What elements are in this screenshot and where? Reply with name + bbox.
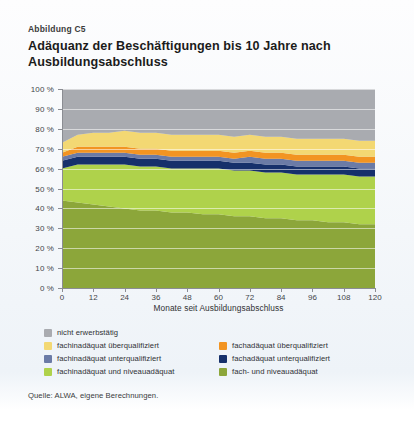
x-axis-tick-label: 48: [183, 293, 192, 302]
x-axis-tick-label: 84: [277, 293, 286, 302]
y-axis-tick-label: 100 %: [0, 85, 54, 94]
y-axis-tick-label: 0 %: [0, 284, 54, 293]
y-axis-tick-label: 90 %: [0, 104, 54, 113]
y-axis-tick: [58, 248, 62, 249]
legend-item: fachinadäquat überqualifiziert: [44, 341, 219, 350]
legend-label: nicht erwerbstätig: [57, 328, 118, 337]
x-axis-tick: [93, 288, 94, 292]
legend-item: fachadäquat unterqualifiziert: [219, 354, 394, 363]
legend-item: fachinadäquat unterqualifiziert: [44, 354, 219, 363]
x-axis-tick: [375, 288, 376, 292]
legend-label: fachinadäquat überqualifiziert: [57, 341, 159, 350]
figure-panel: Abbildung C5 Adäquanz der Beschäftigunge…: [0, 0, 414, 423]
y-axis-tick-label: 30 %: [0, 224, 54, 233]
gridline: [62, 109, 375, 110]
x-axis-tick-label: 0: [60, 293, 64, 302]
y-axis-line: [62, 89, 63, 289]
legend-row: nicht erwerbstätig: [44, 328, 394, 337]
y-axis-tick: [58, 169, 62, 170]
y-axis-tick: [58, 208, 62, 209]
legend-label: fachinadäquat unterqualifiziert: [57, 354, 161, 363]
x-axis-tick-label: 24: [120, 293, 129, 302]
legend-swatch-icon: [219, 368, 227, 376]
legend-row: fachinadäquat und niveauadäquatfach- und…: [44, 367, 394, 376]
legend-swatch-icon: [219, 342, 227, 350]
y-axis-tick-label: 20 %: [0, 244, 54, 253]
y-axis-tick-label: 50 %: [0, 184, 54, 193]
x-axis-tick-label: 120: [368, 293, 381, 302]
x-axis-tick-label: 60: [214, 293, 223, 302]
legend-label: fachadäquat überqualifiziert: [232, 341, 328, 350]
gridline: [62, 89, 375, 90]
x-axis-title: Monate seit Ausbildungsabschluss: [62, 303, 375, 313]
gridline: [62, 268, 375, 269]
gridline: [62, 189, 375, 190]
legend-item: fachadäquat überqualifiziert: [219, 341, 394, 350]
legend-swatch-icon: [44, 368, 52, 376]
legend-label: fachadäquat unterqualifiziert: [232, 354, 330, 363]
x-axis-tick: [125, 288, 126, 292]
legend-item: nicht erwerbstätig: [44, 328, 219, 337]
y-axis-tick: [58, 189, 62, 190]
chart-legend: nicht erwerbstätigfachinadäquat überqual…: [44, 328, 394, 380]
x-axis-tick: [281, 288, 282, 292]
gridline: [62, 169, 375, 170]
x-axis-tick: [250, 288, 251, 292]
x-axis-tick-label: 12: [89, 293, 98, 302]
x-axis-tick-label: 108: [337, 293, 350, 302]
gridline: [62, 208, 375, 209]
y-axis-tick-label: 40 %: [0, 204, 54, 213]
x-axis-tick: [187, 288, 188, 292]
y-axis-tick-label: 60 %: [0, 164, 54, 173]
x-axis-tick: [344, 288, 345, 292]
legend-item: fachinadäquat und niveauadäquat: [44, 367, 219, 376]
legend-label: fach- und niveauadäquat: [232, 367, 318, 376]
legend-swatch-icon: [44, 342, 52, 350]
legend-row: fachinadäquat unterqualifiziertfachadäqu…: [44, 354, 394, 363]
gridline: [62, 228, 375, 229]
x-axis-tick: [219, 288, 220, 292]
y-axis-tick-label: 70 %: [0, 144, 54, 153]
gridline: [62, 129, 375, 130]
x-axis-tick: [156, 288, 157, 292]
legend-item: fach- und niveauadäquat: [219, 367, 394, 376]
x-axis-tick: [62, 288, 63, 292]
source-note: Quelle: ALWA, eigene Berechnungen.: [28, 391, 158, 400]
legend-label: fachinadäquat und niveauadäquat: [57, 367, 174, 376]
legend-swatch-icon: [219, 355, 227, 363]
y-axis-tick: [58, 89, 62, 90]
x-axis-tick-label: 72: [245, 293, 254, 302]
x-axis-tick-label: 96: [308, 293, 317, 302]
gridline: [62, 149, 375, 150]
y-axis-tick-label: 80 %: [0, 124, 54, 133]
x-axis-tick-label: 36: [151, 293, 160, 302]
y-axis-tick: [58, 129, 62, 130]
x-axis-tick: [312, 288, 313, 292]
y-axis-tick: [58, 228, 62, 229]
stacked-area-plot: [62, 89, 375, 288]
legend-swatch-icon: [44, 355, 52, 363]
y-axis-tick: [58, 268, 62, 269]
y-axis-tick: [58, 149, 62, 150]
y-axis-tick: [58, 109, 62, 110]
legend-swatch-icon: [44, 329, 52, 337]
gridline: [62, 248, 375, 249]
legend-row: fachinadäquat überqualifiziertfachadäqua…: [44, 341, 394, 350]
y-axis-tick-label: 10 %: [0, 264, 54, 273]
